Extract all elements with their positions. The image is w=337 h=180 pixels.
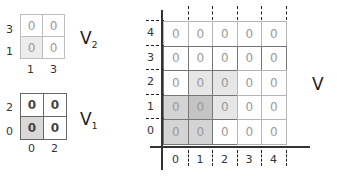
v-row-label: 4 [147,26,154,39]
v2-cell: 0 [42,36,65,59]
v-cell: 0 [261,95,287,121]
v-cell: 0 [261,119,287,145]
v-cell: 0 [188,46,214,72]
v-col-label: 1 [197,153,204,166]
v1-title: V1 [80,109,97,131]
v-cell: 0 [212,119,238,145]
v-cell: 0 [163,21,189,47]
v-col-divider [212,150,213,166]
v-row-label: 3 [147,51,154,64]
v-cell: 0 [237,95,263,121]
v-col-label: 3 [246,153,253,166]
v2-cell: 0 [20,14,43,37]
v-cell: 0 [212,95,238,121]
v-cell: 0 [212,46,238,72]
v-cell: 0 [188,95,214,121]
v-col-divider-top [212,6,213,20]
v2-row-label: 1 [6,45,13,58]
v-cell: 0 [163,119,189,145]
v-cell: 0 [163,70,189,96]
v-cell: 0 [188,70,214,96]
v-col-divider-top [261,6,262,20]
v-cell: 0 [261,70,287,96]
v-col-label: 0 [172,153,179,166]
v-cell: 0 [237,70,263,96]
v2-cell: 0 [42,14,65,37]
v-col-divider [237,150,238,166]
v-cell: 0 [237,46,263,72]
v-cell: 0 [237,119,263,145]
v2-col-label: 3 [50,63,57,76]
v-cell: 0 [163,95,189,121]
v-cell: 0 [163,46,189,72]
v1-cell: 0 [43,93,67,117]
v-col-divider-top [237,6,238,20]
v-title: V [312,74,324,94]
v-cell: 0 [261,21,287,47]
v-col-divider [261,150,262,166]
v1-row-label: 2 [6,101,13,114]
v2-title: V2 [80,28,97,50]
v-cell: 0 [188,21,214,47]
x-axis [150,146,310,148]
v-col-divider [286,150,287,166]
v-row-label: 0 [147,124,154,137]
v2-row-label: 3 [6,23,13,36]
v-col-divider [188,150,189,166]
v-row-label: 1 [147,100,154,113]
v1-cell: 0 [43,116,67,140]
v-cell: 0 [261,46,287,72]
v-col-divider-top [286,6,287,20]
v-cell: 0 [212,21,238,47]
v1-cell: 0 [20,93,44,117]
v1-col-label: 0 [28,142,35,155]
v1-cell: 0 [20,116,44,140]
v2-col-label: 1 [27,63,34,76]
v-cell: 0 [237,21,263,47]
v-cell: 0 [212,70,238,96]
v-col-divider-top [188,6,189,20]
v-row-label: 2 [147,75,154,88]
v-cell: 0 [188,119,214,145]
v1-col-label: 2 [51,142,58,155]
v-col-label: 2 [221,153,228,166]
v1-row-label: 0 [6,125,13,138]
v2-cell: 0 [20,36,43,59]
v-col-label: 4 [270,153,277,166]
